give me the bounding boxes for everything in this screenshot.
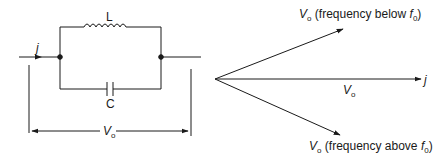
- phasor-lower-label: Vo (frequency above f0): [309, 140, 433, 152]
- phasor-reference-label: j: [424, 74, 427, 86]
- phasor-below-f0: [215, 29, 343, 79]
- capacitor-label: C: [106, 98, 115, 110]
- phasor-horizontal-label: Vo: [343, 84, 355, 96]
- diagram-graphics: [0, 0, 447, 161]
- current-arrow-icon: [35, 55, 42, 60]
- phasor-diagram: [215, 29, 421, 135]
- inductor-icon: [84, 24, 126, 27]
- inductor-label: L: [106, 11, 113, 23]
- lc-parallel-circuit-diagram: L C j Vo j Vo Vo (frequency below f0) Vo…: [0, 0, 447, 161]
- circuit: [19, 24, 201, 136]
- current-label: j: [36, 42, 39, 54]
- phasor-upper-label: Vo (frequency below f0): [299, 8, 421, 20]
- right-node: [159, 55, 164, 60]
- left-node: [58, 55, 63, 60]
- phasor-above-f0: [215, 79, 340, 135]
- voltage-label: Vo: [103, 125, 115, 137]
